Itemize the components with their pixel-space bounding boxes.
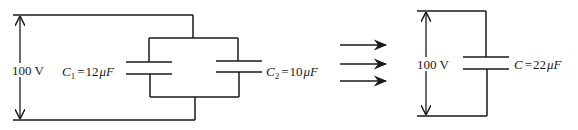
c1-label: C1=12μF xyxy=(62,64,115,81)
c-equivalent-label: C=22μF xyxy=(514,57,563,72)
c2-label: C2=10μF xyxy=(266,64,319,81)
equivalence-arrows xyxy=(340,45,386,81)
left-circuit xyxy=(13,15,262,120)
right-voltage-label: 100 V xyxy=(417,57,450,72)
capacitor-diagram: 100 V C1=12μF C2=10μF 100 V C=22μF xyxy=(0,0,578,130)
left-voltage-label: 100 V xyxy=(12,63,45,78)
